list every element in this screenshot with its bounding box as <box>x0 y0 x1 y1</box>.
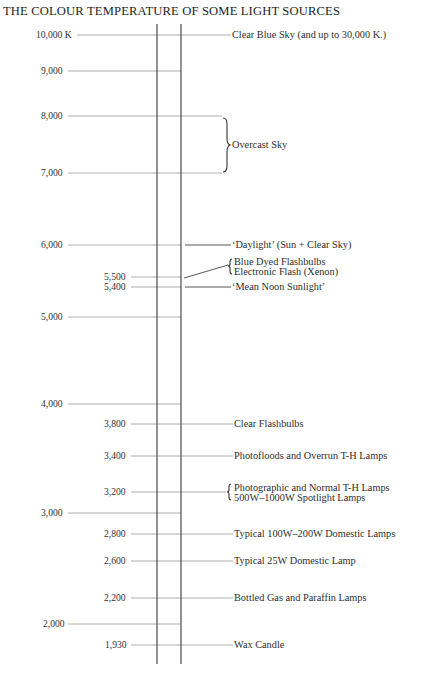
source-spotlight-lamps: 500W–1000W Spotlight Lamps <box>234 492 365 503</box>
tick-label-3000: 3,000 <box>41 507 63 518</box>
colour-temperature-scale <box>0 0 421 674</box>
tick-label-3200: 3,200 <box>104 486 126 497</box>
source-mean-noon-sunlight: ‘Mean Noon Sunlight’ <box>232 281 325 292</box>
tick-label-4000: 4,000 <box>41 398 63 409</box>
source-clear-blue-sky: Clear Blue Sky (and up to 30,000 K.) <box>232 29 386 40</box>
source-wax-candle: Wax Candle <box>234 639 284 650</box>
tick-label-7000: 7,000 <box>41 167 63 178</box>
brace-flash-icon <box>228 259 232 274</box>
leader-flash <box>184 265 228 278</box>
source-daylight: ‘Daylight’ (Sun + Clear Sky) <box>232 239 351 250</box>
tick-label-9000: 9,000 <box>41 65 63 76</box>
source-overcast-sky: Overcast Sky <box>232 139 287 150</box>
source-domestic-25w: Typical 25W Domestic Lamp <box>234 555 356 566</box>
tick-label-3800: 3,800 <box>104 418 126 429</box>
source-photofloods: Photofloods and Overrun T-H Lamps <box>234 450 387 461</box>
tick-label-5000: 5,000 <box>41 311 63 322</box>
tick-label-6000: 6,000 <box>41 239 63 250</box>
tick-label-2800: 2,800 <box>104 528 126 539</box>
brace-overcast-icon <box>223 118 230 172</box>
source-clear-flashbulbs: Clear Flashbulbs <box>234 418 304 429</box>
tick-label-2200: 2,200 <box>104 592 126 603</box>
tick-label-1930: 1,930 <box>105 639 127 650</box>
source-electronic-flash: Electronic Flash (Xenon) <box>234 266 338 277</box>
tick-label-10000: 10,000 K <box>36 29 72 40</box>
tick-label-8000: 8,000 <box>41 110 63 121</box>
tick-label-2600: 2,600 <box>104 555 126 566</box>
tick-label-5400: 5,400 <box>104 281 126 292</box>
brace-th-lamps-icon <box>227 484 231 500</box>
tick-label-3400: 3,400 <box>104 450 126 461</box>
source-bottled-gas: Bottled Gas and Paraffin Lamps <box>234 592 367 603</box>
source-domestic-100-200w: Typical 100W–200W Domestic Lamps <box>234 528 395 539</box>
tick-label-2000: 2,000 <box>43 618 65 629</box>
